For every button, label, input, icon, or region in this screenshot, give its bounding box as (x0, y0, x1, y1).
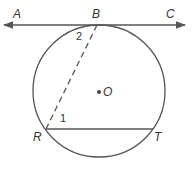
angle-label-2: 2 (76, 30, 82, 42)
label-t: T (154, 130, 163, 144)
geometry-diagram: A B C O R T 1 2 (0, 0, 194, 177)
label-b: B (92, 7, 100, 21)
angle-label-1: 1 (60, 112, 66, 124)
chord-br-dashed (46, 25, 97, 129)
label-o: O (103, 85, 112, 99)
label-a: A (12, 7, 21, 21)
label-r: R (33, 130, 42, 144)
label-c: C (166, 7, 175, 21)
center-point-icon (97, 90, 101, 94)
